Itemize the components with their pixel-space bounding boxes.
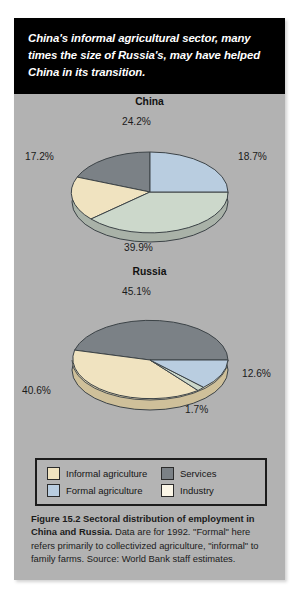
legend: Informal agriculture Formal agriculture …: [35, 458, 267, 506]
legend-swatch-services: [161, 467, 174, 480]
legend-swatch-industry: [161, 484, 174, 497]
china-slice-formal: [150, 152, 228, 192]
china-pie-chart: China 24: [14, 94, 285, 264]
china-label-formal: 18.7%: [238, 151, 267, 162]
russia-label-services: 45.1%: [122, 286, 151, 297]
china-label-industry: 17.2%: [25, 151, 54, 162]
legend-label-informal-agriculture: Informal agriculture: [66, 468, 147, 479]
china-label-informal: 39.9%: [124, 242, 153, 253]
figure-panel: China's informal agricultural sector, ma…: [14, 18, 285, 580]
headline-banner: China's informal agricultural sector, ma…: [14, 18, 285, 94]
legend-swatch-formal-agriculture: [47, 484, 60, 497]
legend-label-services: Services: [180, 468, 216, 479]
russia-label-industry: 1.7%: [185, 404, 208, 415]
legend-item-informal-agriculture: Informal agriculture: [47, 467, 147, 480]
legend-label-industry: Industry: [180, 485, 214, 496]
legend-label-formal-agriculture: Formal agriculture: [66, 485, 143, 496]
figure-caption: Figure 15.2 Sectoral distribution of emp…: [31, 512, 271, 566]
charts-area: China 24: [14, 94, 285, 454]
russia-pie-chart: Russia 45.1%: [14, 264, 285, 436]
legend-swatch-informal-agriculture: [47, 467, 60, 480]
russia-label-formal: 12.6%: [242, 368, 271, 379]
china-label-services: 24.2%: [122, 116, 151, 127]
russia-label-informal: 40.6%: [22, 385, 51, 396]
legend-item-formal-agriculture: Formal agriculture: [47, 484, 143, 497]
legend-item-industry: Industry: [161, 484, 214, 497]
legend-item-services: Services: [161, 467, 216, 480]
headline-text: China's informal agricultural sector, ma…: [28, 30, 276, 81]
